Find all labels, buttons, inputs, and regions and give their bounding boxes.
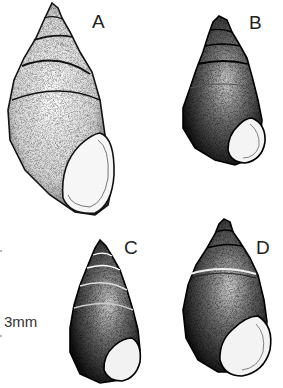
specimen-label-d: D — [256, 238, 270, 257]
scale-bar-label: 3mm — [4, 314, 37, 329]
shell-c — [70, 240, 140, 383]
shell-a — [8, 3, 114, 215]
scale-bar-tick-bottom — [0, 335, 2, 337]
shell-figure — [0, 0, 283, 388]
shell-b — [183, 16, 265, 165]
specimen-label-a: A — [92, 12, 105, 31]
scale-bar-tick-top — [0, 250, 2, 252]
specimen-label-b: B — [249, 13, 262, 32]
specimen-label-c: C — [124, 238, 138, 257]
